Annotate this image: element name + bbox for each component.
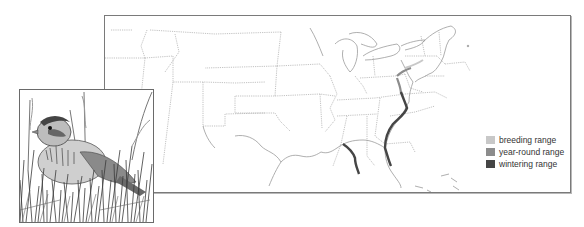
legend-item-wintering: wintering range — [486, 158, 564, 170]
legend-label: wintering range — [499, 159, 557, 169]
legend-label: breeding range — [499, 135, 556, 145]
year-round-swatch — [486, 148, 495, 156]
legend-item-year-round: year-round range — [486, 146, 564, 158]
coastlines — [105, 26, 469, 192]
breeding-range — [405, 60, 423, 68]
map-legend: breeding range year-round range winterin… — [486, 134, 564, 170]
sparrow-in-grass-image — [20, 90, 153, 222]
wintering-swatch — [486, 160, 495, 168]
bird-illustration — [19, 89, 154, 223]
state-borders — [105, 30, 470, 166]
range-map: breeding range year-round range winterin… — [104, 15, 571, 193]
breeding-swatch — [486, 136, 495, 144]
legend-label: year-round range — [499, 147, 564, 157]
year-round-range — [397, 68, 411, 94]
wintering-range — [343, 92, 407, 174]
legend-item-breeding: breeding range — [486, 134, 564, 146]
